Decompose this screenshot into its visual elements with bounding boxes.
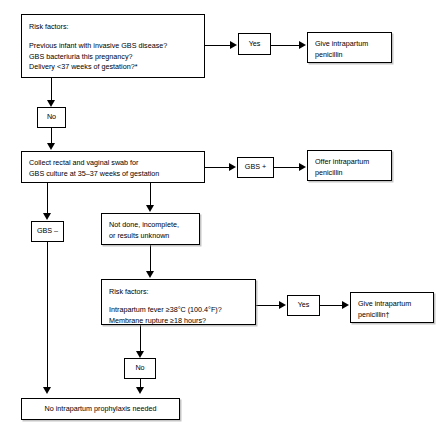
- node-no-top[interactable]: No: [37, 107, 66, 128]
- node-no-lower-label: No: [135, 363, 144, 374]
- connector-collectswab-to-notdone: [150, 182, 151, 206]
- node-not-done-label: Not done, incomplete, or results unknown: [109, 220, 196, 241]
- arrowhead-riskfactorslower-to-no: [136, 351, 144, 358]
- arrowhead-riskfactors-to-no: [47, 100, 55, 107]
- connector-yeslower-to-penicillinlower: [320, 305, 343, 306]
- arrowhead-no-to-collectswab: [47, 143, 55, 150]
- node-offer-penicillin[interactable]: Offer intrapartum penicillin: [307, 150, 392, 181]
- node-gbs-negative-label: GBS –: [37, 226, 58, 237]
- arrowhead-collectswab-to-gbsneg: [43, 213, 51, 220]
- node-no-prophylaxis-label: No intrapartum prophylaxis needed: [45, 404, 157, 415]
- node-yes-top-label: Yes: [249, 39, 261, 50]
- node-risk-factors-lower[interactable]: Risk factors: Intrapartum fever ≥38°C (1…: [101, 279, 256, 325]
- connector-riskfactors-to-yes: [205, 45, 231, 46]
- arrowhead-collectswab-to-gbspos: [229, 163, 236, 171]
- node-give-penicillin-top[interactable]: Give intrapartum penicillin: [307, 32, 392, 63]
- connector-yes-to-penicillin: [271, 45, 300, 46]
- node-risk-factors-top-label: Risk factors:: [29, 22, 201, 33]
- connector-riskfactorslower-to-yes: [256, 305, 280, 306]
- connector-notdone-to-riskfactorslower: [150, 245, 151, 272]
- node-yes-lower-label: Yes: [298, 300, 310, 311]
- arrowhead-yes-to-penicillin: [299, 41, 306, 49]
- node-yes-top[interactable]: Yes: [238, 33, 271, 55]
- connector-gbsneg-to-noprophylaxis: [47, 241, 48, 388]
- node-no-prophylaxis[interactable]: No intrapartum prophylaxis needed: [21, 398, 180, 420]
- node-collect-swab[interactable]: Collect rectal and vaginal swab for GBS …: [21, 151, 205, 183]
- connector-riskfactorslower-to-no: [140, 325, 141, 352]
- node-give-penicillin-lower-label: Give intrapartum penicillin†: [358, 299, 430, 320]
- connector-collectswab-to-gbsneg: [47, 182, 48, 214]
- arrowhead-riskfactors-to-yes: [230, 41, 237, 49]
- node-collect-swab-label: Collect rectal and vaginal swab for GBS …: [29, 158, 201, 179]
- node-gbs-positive-label: GBS +: [245, 162, 266, 173]
- node-gbs-negative[interactable]: GBS –: [31, 221, 64, 242]
- arrowhead-gbspos-to-offerpenicillin: [299, 163, 306, 171]
- node-not-done[interactable]: Not done, incomplete, or results unknown: [101, 213, 200, 245]
- node-give-penicillin-top-label: Give intrapartum penicillin: [315, 39, 388, 60]
- connector-no-to-collectswab: [51, 127, 52, 144]
- arrowhead-notdone-to-riskfactorslower: [146, 271, 154, 278]
- arrowhead-riskfactorslower-to-yes: [279, 301, 286, 309]
- node-risk-factors-top-body: Previous infant with invasive GBS diseas…: [29, 41, 201, 73]
- node-risk-factors-lower-label: Risk factors:: [109, 287, 252, 298]
- connector-gbspos-to-offerpenicillin: [274, 167, 300, 168]
- arrowhead-yeslower-to-penicillinlower: [342, 301, 349, 309]
- flowchart-canvas: Risk factors: Previous infant with invas…: [0, 0, 442, 428]
- arrowhead-nolower-to-noprophylaxis: [136, 387, 144, 394]
- node-gbs-positive[interactable]: GBS +: [237, 157, 274, 178]
- node-no-lower[interactable]: No: [124, 358, 156, 379]
- node-offer-penicillin-label: Offer intrapartum penicillin: [315, 157, 388, 178]
- node-no-top-label: No: [47, 112, 56, 123]
- connector-riskfactors-to-no: [51, 78, 52, 101]
- node-give-penicillin-lower[interactable]: Give intrapartum penicillin†: [350, 292, 434, 323]
- connector-collectswab-to-gbspos: [205, 167, 230, 168]
- node-yes-lower[interactable]: Yes: [287, 295, 320, 316]
- node-risk-factors-lower-body: Intrapartum fever ≥38°C (100.4°F)? Membr…: [109, 305, 252, 326]
- node-risk-factors-top[interactable]: Risk factors: Previous infant with invas…: [21, 14, 205, 78]
- arrowhead-collectswab-to-notdone: [146, 205, 154, 212]
- arrowhead-gbsneg-to-noprophylaxis: [43, 387, 51, 394]
